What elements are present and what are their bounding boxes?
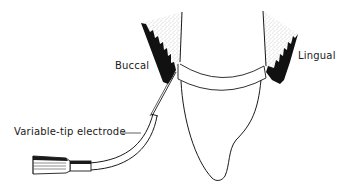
tooth-root — [181, 80, 261, 180]
tooth-crown — [178, 64, 266, 90]
lingual-gingiva — [263, 11, 298, 84]
electrode-cable — [90, 114, 158, 170]
electrode-label: Variable-tip electrode — [14, 126, 126, 137]
electrode-handle — [33, 156, 91, 174]
lingual-label: Lingual — [298, 50, 336, 61]
tooth-electrode-diagram — [0, 0, 346, 189]
buccal-label: Buccal — [115, 60, 149, 71]
